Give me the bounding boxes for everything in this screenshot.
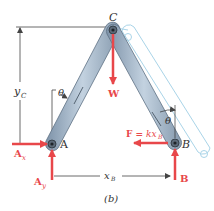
pin-b: [171, 139, 179, 147]
label-ax: A x: [13, 148, 26, 162]
pin-c: [109, 26, 117, 34]
svg-text:A: A: [33, 176, 42, 187]
svg-text:B: B: [157, 133, 163, 140]
svg-text:A: A: [13, 148, 22, 159]
svg-text:C: C: [21, 92, 27, 100]
label-b-force: B: [180, 173, 188, 184]
label-a: A: [59, 138, 69, 151]
label-xb: x B: [104, 170, 116, 182]
theta-left-label: θ: [58, 87, 64, 98]
label-spring: F = kx B: [126, 129, 163, 140]
label-b: B: [181, 138, 190, 151]
svg-text:F =: F =: [126, 129, 143, 139]
label-c: C: [109, 11, 118, 24]
svg-text:x: x: [104, 170, 110, 181]
label-yc: y C: [13, 85, 27, 100]
theta-right-label: θ: [165, 115, 171, 126]
svg-text:x: x: [22, 154, 26, 162]
label-ay: A y: [33, 176, 47, 190]
svg-text:y: y: [41, 182, 47, 190]
svg-text:kx: kx: [146, 129, 157, 139]
figure-caption: (b): [104, 193, 118, 204]
member-ac: [45, 22, 119, 151]
free-body-diagram: y C θ θ C A B W A: [0, 0, 214, 211]
label-w: W: [107, 88, 120, 99]
svg-text:y: y: [13, 85, 21, 98]
pin-a: [48, 140, 56, 148]
svg-text:B: B: [110, 175, 116, 182]
